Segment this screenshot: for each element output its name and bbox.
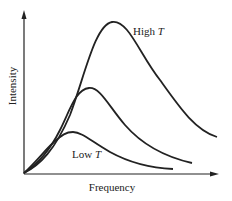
x-axis-label: Frequency xyxy=(89,181,136,193)
low-t-label: Low T xyxy=(72,148,102,160)
y-axis-label: Intensity xyxy=(6,66,18,105)
y-axis-arrow-icon xyxy=(22,10,27,19)
high-t-label: High T xyxy=(133,25,165,37)
curve-high-t xyxy=(24,22,217,173)
curve-medium-t xyxy=(24,88,192,173)
blackbody-chart: Intensity Frequency High T Low T xyxy=(0,0,232,201)
x-axis-arrow-icon xyxy=(210,172,219,177)
